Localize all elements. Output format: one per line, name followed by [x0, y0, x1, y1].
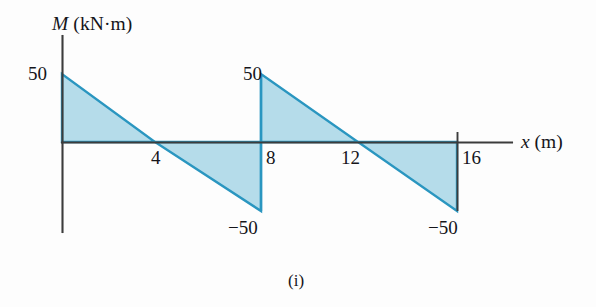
value-label-peak-2: 50 — [243, 64, 262, 83]
x-axis-label-symbol: x — [521, 131, 530, 152]
x-tick-label-4: 4 — [151, 148, 161, 167]
x-axis-label-units: (m) — [530, 131, 563, 152]
value-label-peak-1: 50 — [28, 64, 47, 83]
value-label-trough-2: −50 — [428, 218, 458, 237]
x-tick-label-12: 12 — [341, 148, 360, 167]
moment-area-segment2-positive — [261, 74, 358, 142]
moment-area-segment2-negative — [358, 142, 457, 211]
value-label-trough-1: −50 — [228, 218, 258, 237]
y-axis-label-symbol: M — [52, 13, 68, 34]
figure-page: M (kN·m) x (m) 50 −50 50 −50 4 8 12 16 (… — [0, 0, 596, 307]
bending-moment-diagram — [0, 0, 596, 307]
moment-area-segment1-positive — [62, 74, 155, 142]
x-tick-label-16: 16 — [462, 148, 481, 167]
x-axis-label: x (m) — [521, 132, 563, 152]
y-axis-label: M (kN·m) — [52, 14, 132, 34]
moment-area-segment1-negative — [155, 142, 261, 211]
figure-caption: (i) — [288, 272, 304, 289]
x-tick-label-8: 8 — [266, 148, 276, 167]
y-axis-label-units: (kN·m) — [68, 13, 132, 34]
